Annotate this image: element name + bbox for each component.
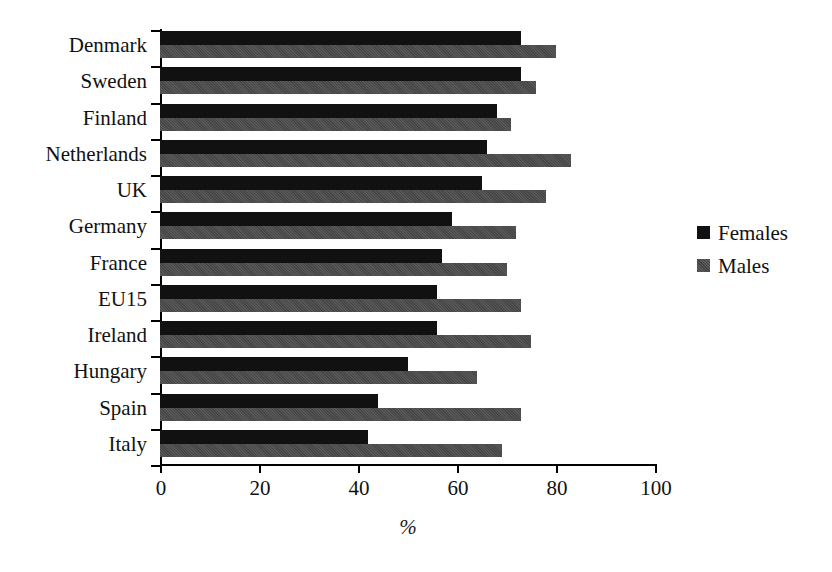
category-group: Finland: [160, 103, 655, 139]
legend-label-females: Females: [718, 221, 788, 245]
bar-males: [160, 118, 511, 131]
category-group: UK: [160, 175, 655, 211]
y-axis-tick: [151, 103, 160, 105]
x-axis-tick-label: 40: [329, 476, 389, 500]
y-axis-tick: [151, 211, 160, 213]
x-axis-tick: [259, 464, 261, 473]
legend-swatch-females-icon: [697, 226, 710, 239]
category-group: Ireland: [160, 320, 655, 356]
x-axis-tick: [655, 464, 657, 473]
x-axis-title: %: [160, 515, 656, 540]
category-group: EU15: [160, 284, 655, 320]
bar-females: [160, 249, 442, 263]
category-group: Spain: [160, 393, 655, 429]
y-axis-tick: [151, 139, 160, 141]
y-axis-tick: [151, 284, 160, 286]
category-label: Germany: [69, 211, 147, 241]
bar-males: [160, 444, 502, 457]
y-axis-tick: [151, 320, 160, 322]
bar-females: [160, 212, 452, 226]
category-label: Denmark: [69, 30, 147, 60]
x-axis-tick: [457, 464, 459, 473]
bar-females: [160, 140, 487, 154]
category-group: Italy: [160, 429, 655, 465]
bar-males: [160, 299, 521, 312]
legend-label-males: Males: [718, 254, 769, 278]
bar-males: [160, 263, 507, 276]
x-axis-tick: [556, 464, 558, 473]
y-axis-tick: [151, 465, 160, 467]
category-group: France: [160, 248, 655, 284]
y-axis-tick: [151, 248, 160, 250]
chart-legend: Females Males: [697, 216, 788, 282]
x-axis-tick: [160, 464, 162, 473]
bar-females: [160, 430, 368, 444]
y-axis-tick: [151, 66, 160, 68]
y-axis-tick: [151, 30, 160, 32]
category-label: UK: [117, 175, 147, 205]
bar-males: [160, 190, 546, 203]
category-label: France: [90, 248, 147, 278]
x-axis-tick-label: 20: [230, 476, 290, 500]
x-axis-tick-label: 80: [527, 476, 587, 500]
category-label: Sweden: [81, 66, 148, 96]
x-axis-tick-label: 100: [626, 476, 686, 500]
category-label: Italy: [109, 429, 147, 459]
bar-males: [160, 226, 516, 239]
bar-females: [160, 176, 482, 190]
plot-area: DenmarkSwedenFinlandNetherlandsUKGermany…: [160, 30, 655, 465]
bar-males: [160, 408, 521, 421]
category-label: Ireland: [88, 320, 147, 350]
x-axis-tick-label: 60: [428, 476, 488, 500]
y-axis-tick: [151, 175, 160, 177]
category-label: EU15: [98, 284, 147, 314]
y-axis-tick: [151, 429, 160, 431]
category-label: Spain: [99, 393, 147, 423]
category-label: Netherlands: [46, 139, 147, 169]
bar-females: [160, 357, 408, 371]
category-label: Finland: [83, 103, 147, 133]
category-label: Hungary: [74, 356, 147, 386]
y-axis-tick: [151, 356, 160, 358]
bar-males: [160, 45, 556, 58]
x-axis-tick: [358, 464, 360, 473]
bar-females: [160, 31, 521, 45]
bar-females: [160, 285, 437, 299]
category-group: Hungary: [160, 356, 655, 392]
bar-females: [160, 394, 378, 408]
bar-females: [160, 67, 521, 81]
bar-chart: DenmarkSwedenFinlandNetherlandsUKGermany…: [0, 0, 832, 572]
x-axis-tick-label: 0: [131, 476, 191, 500]
y-axis-tick: [151, 393, 160, 395]
bar-males: [160, 154, 571, 167]
category-group: Germany: [160, 211, 655, 247]
category-group: Denmark: [160, 30, 655, 66]
legend-item-females: Females: [697, 216, 788, 249]
legend-swatch-males-icon: [697, 259, 710, 272]
bar-males: [160, 371, 477, 384]
bar-males: [160, 335, 531, 348]
category-group: Netherlands: [160, 139, 655, 175]
bar-females: [160, 321, 437, 335]
bar-females: [160, 104, 497, 118]
category-group: Sweden: [160, 66, 655, 102]
bar-males: [160, 81, 536, 94]
legend-item-males: Males: [697, 249, 788, 282]
